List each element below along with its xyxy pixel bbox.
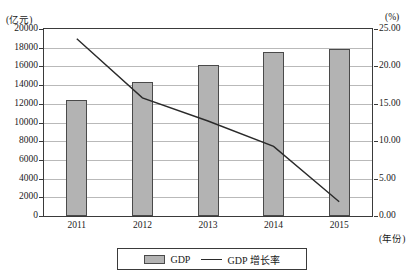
x-axis-label-2015: 2015 <box>317 220 361 230</box>
right-axis-tick-label: 15.00 <box>379 99 400 109</box>
right-axis-tick-label: 5.00 <box>379 174 396 184</box>
legend-item-growth-rate: GDP 增长率 <box>201 252 279 267</box>
gdp-growth-chart: (亿元) (%) (年份) 02000400060008000100001200… <box>0 0 420 278</box>
right-axis-tick-mark <box>374 66 378 67</box>
left-axis-tick-label: 12000 <box>0 99 38 109</box>
legend-item-gdp: GDP <box>144 254 190 265</box>
left-axis-tick-label: 20000 <box>0 24 38 34</box>
x-axis-label-2011: 2011 <box>55 220 99 230</box>
legend-line-swatch-icon <box>201 259 222 260</box>
right-axis-tick-label: 20.00 <box>379 61 400 71</box>
x-axis-label-2012: 2012 <box>120 220 164 230</box>
legend-label-gdp: GDP <box>170 254 190 265</box>
left-axis-tick-label: 16000 <box>0 61 38 71</box>
right-axis-tick-mark <box>374 216 378 217</box>
plot-area <box>43 28 373 217</box>
left-axis-tick-label: 2000 <box>0 192 38 202</box>
left-axis-tick-label: 4000 <box>0 174 38 184</box>
right-axis-tick-mark <box>374 179 378 180</box>
x-axis-label-2013: 2013 <box>186 220 230 230</box>
x-axis-label-2014: 2014 <box>252 220 296 230</box>
right-axis-tick-label: 10.00 <box>379 136 400 146</box>
growth-rate-line <box>44 29 372 216</box>
left-axis-tick-label: 18000 <box>0 43 38 53</box>
left-axis-tick-label: 10000 <box>0 118 38 128</box>
legend-label-growth-rate: GDP 增长率 <box>227 252 279 267</box>
chart-legend: GDP GDP 增长率 <box>117 248 307 270</box>
right-axis-tick-mark <box>374 141 378 142</box>
right-axis-tick-label: 0.00 <box>379 211 396 221</box>
right-axis-tick-label: 25.00 <box>379 24 400 34</box>
legend-bar-swatch-icon <box>144 255 165 264</box>
left-axis-tick-label: 0 <box>0 211 38 221</box>
x-axis-unit-label: (年份) <box>379 231 405 245</box>
left-axis-tick-label: 14000 <box>0 80 38 90</box>
right-axis-tick-mark <box>374 29 378 30</box>
left-axis-tick-label: 8000 <box>0 136 38 146</box>
left-axis-tick-label: 6000 <box>0 155 38 165</box>
right-axis-unit-label: (%) <box>385 12 399 22</box>
right-axis-tick-mark <box>374 104 378 105</box>
